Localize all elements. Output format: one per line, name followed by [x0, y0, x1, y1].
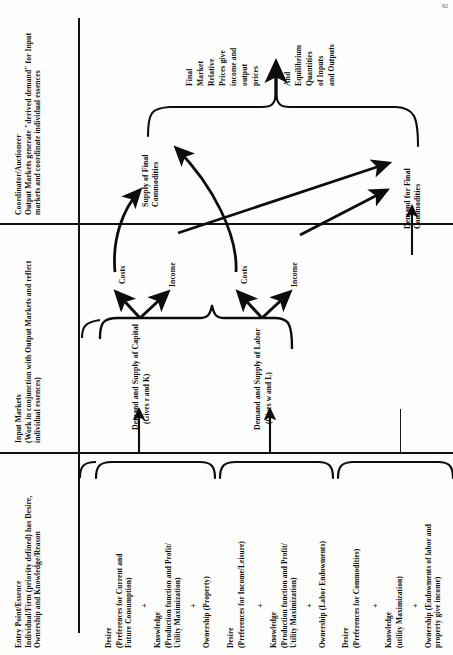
- arrow-labor-to-costs: [238, 292, 262, 318]
- flow-label-income-capital: Income: [168, 262, 178, 287]
- diagram-page: 92 Coordinator/Auctioneer Output Markets…: [0, 0, 453, 655]
- outcome-output: output: [240, 64, 250, 86]
- input-markets-body-text: (Work in conjunction with Output Markets…: [24, 237, 43, 443]
- agent0-plus-1: +: [140, 603, 150, 608]
- diagram-connectors: [0, 0, 453, 655]
- agent1-brace: [220, 462, 333, 478]
- node-demand-supply-labor: Demand and Supply of Labor: [253, 328, 263, 430]
- agent0-desire-heading: Desire: [104, 627, 113, 648]
- outcome-prices-give: Prices give: [218, 50, 228, 86]
- flow-label-costs-labor: Costs: [240, 266, 250, 284]
- node-supply-of-final-commodities: Supply of Final Commodities: [141, 112, 161, 207]
- flow-label-costs-capital: Costs: [118, 266, 128, 284]
- coordinator-heading-text: Coordinator/Auctioneer: [14, 15, 24, 215]
- outcome-and: And: [283, 72, 293, 86]
- agent2-plus-2: +: [411, 603, 421, 608]
- agent2-desire-heading: Desire: [341, 627, 350, 648]
- arrow-costs-labor-to-supply: [176, 148, 236, 272]
- section-heading-entry-point: Entry Point/Essence Individual/Firm (pri…: [14, 458, 43, 648]
- entry-point-hook: [80, 462, 96, 478]
- outcome-relative: Relative: [207, 59, 217, 86]
- agent2-ownership: Ownership (Endowments of labor and prope…: [424, 518, 443, 648]
- arrow-labor-to-income: [262, 292, 290, 318]
- node-demand-supply-capital: Demand and Supply of Capital: [131, 324, 141, 430]
- agent1-plus-2: +: [305, 603, 315, 608]
- agent2-knowledge-body: (utility Maximization): [395, 576, 404, 648]
- outcome-income-output: income and: [229, 48, 239, 86]
- outcome-equilibrium: Equilibrium: [294, 45, 304, 86]
- outcome-quantities: Quantities: [305, 51, 315, 86]
- entry-point-heading-text: Entry Point/Essence: [14, 458, 24, 648]
- capital-band-hook: [82, 320, 100, 338]
- arrow-capital-to-costs: [116, 292, 140, 318]
- page-number: 92: [442, 3, 448, 9]
- agent0-plus-2: +: [189, 603, 199, 608]
- agent2-desire-body: (Preferences for Commodities): [352, 549, 361, 648]
- agent1-knowledge-heading: Knowledge: [269, 612, 278, 648]
- entry-point-body-text: Individual/Firm (priority defined) has D…: [24, 462, 43, 648]
- section-heading-coordinator: Coordinator/Auctioneer Output Markets ge…: [14, 15, 43, 215]
- outcome-final: Final: [185, 69, 195, 86]
- input-markets-brace: [100, 306, 292, 348]
- outcome-prices: prices: [251, 66, 261, 86]
- outcome-brace: [148, 96, 418, 146]
- agent-braces: [96, 462, 453, 478]
- node-labor-gives: (Gives w and L): [264, 372, 273, 424]
- outcome-of-inputs: of Inputs: [316, 56, 326, 86]
- arrow-income-labor-to-demand: [300, 190, 387, 235]
- arrow-costs-capital-to-supply: [114, 190, 140, 272]
- agent1-ownership: Ownership (Labor Endowments): [318, 541, 327, 648]
- agent0-desire-body: (Preferences for Current and Future Cons…: [115, 538, 134, 648]
- outcome-market: Market: [196, 61, 206, 86]
- input-markets-heading-text: Input Markets: [14, 233, 24, 443]
- agent0-knowledge-body: (Production function and Profit/ Utility…: [164, 533, 183, 648]
- agent0-ownership: Ownership (Property): [202, 576, 211, 648]
- section-heading-input-markets: Input Markets (Work in conjunction with …: [14, 233, 43, 443]
- agent1-knowledge-body: (Production function and Profit/ Utility…: [280, 533, 299, 648]
- agent0-brace: [96, 462, 215, 478]
- agent1-desire-body: (Preferences for Income/Leisure): [237, 541, 246, 648]
- agent2-knowledge-heading: Knowledge: [384, 612, 393, 648]
- flow-label-income-labor: Income: [290, 262, 300, 287]
- agent1-desire-heading: Desire: [226, 627, 235, 648]
- right-column-rule: [400, 409, 401, 453]
- outcome-and-outputs: and Outputs: [327, 44, 337, 86]
- node-demand-for-final-commodities: Demand for Final Commodities: [403, 129, 423, 229]
- agent0-knowledge-heading: Knowledge: [153, 612, 162, 648]
- agent1-plus-1: +: [256, 603, 266, 608]
- section-divider-input-entry: [0, 452, 453, 454]
- column-divider-vertical: [78, 18, 80, 633]
- agent2-plus-1: +: [371, 603, 381, 608]
- section-divider-coordinator-input: [0, 223, 453, 225]
- coordinator-body-text: Output Markets generate "derived demand"…: [24, 19, 43, 215]
- agent2-brace: [338, 462, 453, 478]
- node-capital-gives: (Gives r and K): [142, 374, 151, 424]
- arrow-capital-to-income: [140, 292, 168, 318]
